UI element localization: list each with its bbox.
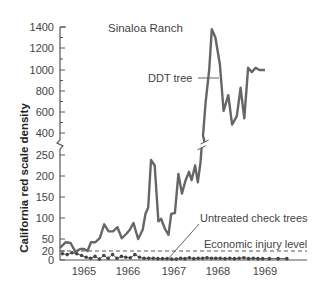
y-tick-label: 1200 <box>30 42 54 54</box>
untreated-check-point <box>152 256 156 260</box>
untreated-check-point <box>106 256 110 260</box>
y-tick-label: 250 <box>36 149 54 161</box>
untreated-check-point <box>247 257 251 261</box>
untreated-check-point <box>98 257 102 261</box>
untreated-check-point <box>142 256 146 260</box>
untreated-check-point <box>233 257 237 261</box>
untreated-check-point <box>251 256 255 260</box>
untreated-check-point <box>65 253 69 257</box>
untreated-check-point <box>210 256 214 260</box>
series-group <box>60 29 289 261</box>
untreated-check-point <box>188 256 192 260</box>
untreated-check-point <box>124 255 128 259</box>
annotation-untreated-check-trees: Untreated check trees <box>200 212 308 224</box>
untreated-check-point <box>192 257 196 261</box>
untreated-check-point <box>111 253 115 257</box>
untreated-check-point <box>201 256 205 260</box>
untreated-check-point <box>261 257 265 261</box>
ddt-tree-line-upper <box>203 29 265 142</box>
untreated-check-point <box>147 256 151 260</box>
untreated-check-point <box>219 256 223 260</box>
untreated-check-point <box>237 256 241 260</box>
x-tick-label: 1967 <box>162 265 186 277</box>
untreated-check-point <box>276 257 280 261</box>
x-axis: 19651966196719681969 <box>60 260 307 277</box>
untreated-check-point <box>256 257 260 261</box>
untreated-check-point <box>214 256 218 260</box>
untreated-check-point <box>75 252 79 256</box>
untreated-check-point <box>174 257 178 261</box>
untreated-check-point <box>115 256 119 260</box>
untreated-check-point <box>170 257 174 261</box>
untreated-check-point <box>285 257 289 261</box>
x-tick-label: 1966 <box>116 265 140 277</box>
untreated-check-point <box>70 251 74 255</box>
untreated-check-point <box>242 256 246 260</box>
y-tick-label: 1000 <box>30 64 54 76</box>
untreated-check-point <box>80 254 84 258</box>
y-tick-label: 20 <box>42 245 54 257</box>
y-tick-label: 200 <box>36 170 54 182</box>
y-tick-label: 150 <box>36 191 54 203</box>
untreated-check-point <box>89 256 93 260</box>
untreated-check-point <box>84 255 88 259</box>
untreated-check-point <box>161 257 165 261</box>
untreated-check-point <box>133 253 137 257</box>
y-tick-label: 800 <box>36 85 54 97</box>
untreated-check-point <box>179 256 183 260</box>
y-axis-label: California red scale density <box>18 103 30 253</box>
untreated-check-point <box>268 257 272 261</box>
y-tick-label: 600 <box>36 106 54 118</box>
untreated-check-point <box>93 255 97 259</box>
untreated-check-point <box>228 256 232 260</box>
untreated-check-point <box>129 256 133 260</box>
untreated-check-point <box>138 255 142 259</box>
untreated-check-point <box>205 256 209 260</box>
y-tick-label: 400 <box>36 127 54 139</box>
annotation-economic-injury-level: Economic injury level <box>204 238 307 250</box>
y-axis: 40060080010001200140002050100150200250 <box>30 21 66 266</box>
untreated-check-point <box>183 257 187 261</box>
chart-title: Sinaloa Ranch <box>108 22 183 34</box>
x-tick-label: 1965 <box>72 265 96 277</box>
annotation-ddt-tree: DDT tree <box>148 72 192 84</box>
chart: 40060080010001200140002050100150200250 1… <box>0 0 321 295</box>
untreated-check-point <box>196 256 200 260</box>
x-tick-label: 1968 <box>206 265 230 277</box>
untreated-check-point <box>120 255 124 259</box>
x-tick-label: 1969 <box>253 265 277 277</box>
y-tick-label: 1400 <box>30 21 54 33</box>
y-tick-label: 50 <box>42 233 54 245</box>
untreated-check-point <box>156 257 160 261</box>
untreated-check-point <box>223 257 227 261</box>
ddt-tree-line <box>60 148 202 252</box>
untreated-check-point <box>102 254 106 258</box>
untreated-check-point <box>61 252 65 256</box>
y-tick-label: 100 <box>36 212 54 224</box>
